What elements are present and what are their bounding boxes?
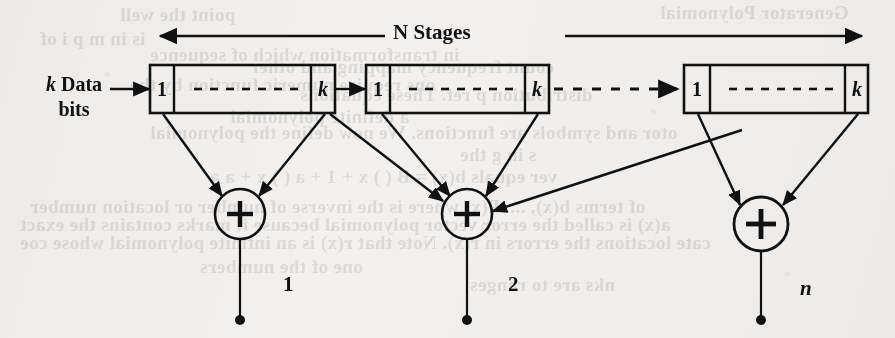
plus-circle-icon xyxy=(746,209,776,239)
tap-lines-adder-1 xyxy=(163,114,325,196)
tap-lines-adder-2 xyxy=(330,114,742,211)
terminal-dot-icon xyxy=(756,315,766,325)
adder-1-output-label: 1 xyxy=(283,272,294,297)
terminal-dot-icon xyxy=(462,315,472,325)
modulo2-adder-2 xyxy=(442,189,492,325)
adder-N-output-label: n xyxy=(800,276,812,301)
terminal-dot-icon xyxy=(235,315,245,325)
data-input-label: k Data bits xyxy=(26,72,122,122)
adder-2-output-label: 2 xyxy=(508,272,519,297)
tap-lines-adder-N xyxy=(698,114,858,205)
data-input-label-line2: bits xyxy=(58,98,89,120)
figure-container: Generator Polynomialpoint the wellis in … xyxy=(0,0,895,338)
stage-2-first-cell-label: 1 xyxy=(373,78,383,101)
n-stages-label: N Stages xyxy=(393,20,471,45)
shift-register-stage-N xyxy=(684,65,868,113)
stage-2-last-cell-label: k xyxy=(532,78,542,101)
shift-register-stage-1 xyxy=(150,65,335,113)
shift-register-diagram xyxy=(0,0,895,338)
data-input-label-line1: Data xyxy=(56,73,102,95)
data-input-label-k: k xyxy=(46,73,56,95)
stage-N-last-cell-label: k xyxy=(852,78,862,101)
stage-N-first-cell-label: 1 xyxy=(692,78,702,101)
plus-circle-icon xyxy=(227,201,253,227)
shift-register-stage-2 xyxy=(366,65,549,113)
stage-1-first-cell-label: 1 xyxy=(157,78,167,101)
plus-circle-icon xyxy=(454,201,480,227)
modulo2-adder-N xyxy=(734,197,788,325)
stage-1-last-cell-label: k xyxy=(318,78,328,101)
modulo2-adder-1 xyxy=(215,189,265,325)
